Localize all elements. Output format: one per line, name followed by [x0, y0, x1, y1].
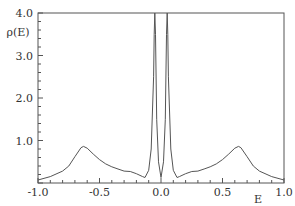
x-tick-label: -0.5 — [89, 186, 110, 199]
x-tick-label: -1.0 — [27, 186, 48, 199]
x-tick-label: 0.5 — [214, 186, 232, 199]
y-axis-label: ρ(E) — [6, 26, 29, 39]
y-tick-label: 2.0 — [16, 92, 34, 105]
density-of-states-chart: -1.0-0.50.00.51.0 1.02.03.04.0 E ρ(E) — [0, 0, 295, 206]
y-tick-label: 4.0 — [16, 7, 34, 20]
x-axis-label: E — [254, 193, 262, 206]
y-tick-label: 3.0 — [16, 50, 34, 63]
x-tick-label: 0.0 — [152, 186, 170, 199]
y-tick-label: 1.0 — [16, 135, 34, 148]
x-tick-label: 1.0 — [275, 186, 293, 199]
density-curve — [38, 13, 284, 180]
x-tick-labels: -1.0-0.50.00.51.0 — [27, 186, 292, 199]
